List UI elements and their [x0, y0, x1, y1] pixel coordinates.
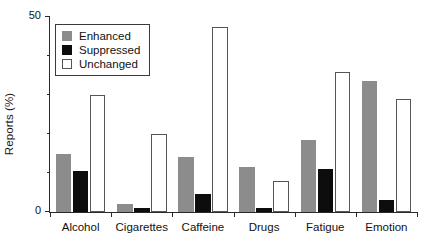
- x-axis-label-drugs: Drugs: [249, 221, 280, 233]
- bar-group: [362, 17, 412, 212]
- bar-cigarettes-suppressed: [134, 208, 150, 212]
- bar-drugs-suppressed: [256, 208, 272, 212]
- legend-swatch-unchanged-icon: [62, 59, 72, 69]
- bar-fatigue-unchanged: [335, 72, 351, 212]
- bar-caffeine-suppressed: [195, 194, 211, 212]
- bar-emotion-unchanged: [396, 99, 412, 212]
- bar-cigarettes-enhanced: [117, 204, 133, 212]
- legend-label: Suppressed: [79, 43, 140, 57]
- bar-alcohol-enhanced: [56, 154, 72, 213]
- y-axis-label: Reports (%): [0, 0, 18, 248]
- x-axis-tick: [295, 212, 296, 217]
- y-axis-tick-label: 50: [29, 9, 41, 21]
- legend-swatch-suppressed-icon: [62, 45, 72, 55]
- x-axis-tick: [356, 212, 357, 217]
- legend-swatch-enhanced-icon: [62, 31, 72, 41]
- x-axis-label-cigarettes: Cigarettes: [116, 221, 168, 233]
- legend-label: Unchanged: [79, 57, 138, 71]
- bar-group: [239, 17, 289, 212]
- legend-label: Enhanced: [79, 29, 131, 43]
- bar-group: [301, 17, 351, 212]
- bar-alcohol-suppressed: [73, 171, 89, 212]
- y-axis-minor-tick: [47, 133, 51, 134]
- x-axis-tick: [50, 212, 51, 217]
- bar-drugs-enhanced: [239, 167, 255, 212]
- bar-caffeine-enhanced: [178, 157, 194, 212]
- bar-group: [178, 17, 228, 212]
- bar-cigarettes-unchanged: [151, 134, 167, 212]
- bar-emotion-enhanced: [362, 81, 378, 212]
- y-axis-minor-tick: [47, 55, 51, 56]
- y-axis-tick-label: 0: [35, 204, 41, 216]
- bar-alcohol-unchanged: [90, 95, 106, 212]
- bar-drugs-unchanged: [273, 181, 289, 212]
- x-axis-tick: [111, 212, 112, 217]
- legend-item-suppressed: Suppressed: [62, 43, 140, 57]
- bar-fatigue-suppressed: [318, 169, 334, 212]
- y-axis-minor-tick: [47, 94, 51, 95]
- chart-legend: EnhancedSuppressedUnchanged: [55, 24, 150, 76]
- bar-chart-figure: Reports (%) 050 AlcoholCigarettesCaffein…: [0, 0, 421, 248]
- x-axis-label-fatigue: Fatigue: [306, 221, 344, 233]
- legend-item-unchanged: Unchanged: [62, 57, 140, 71]
- x-axis-tick: [234, 212, 235, 217]
- legend-item-enhanced: Enhanced: [62, 29, 140, 43]
- bar-emotion-suppressed: [379, 200, 395, 212]
- x-axis-tick: [417, 212, 418, 217]
- bar-caffeine-unchanged: [212, 27, 228, 212]
- y-axis-tick: 50: [45, 16, 50, 17]
- x-axis-label-caffeine: Caffeine: [182, 221, 225, 233]
- bar-fatigue-enhanced: [301, 140, 317, 212]
- x-axis-label-alcohol: Alcohol: [62, 221, 100, 233]
- x-axis-label-emotion: Emotion: [365, 221, 407, 233]
- x-axis-tick: [172, 212, 173, 217]
- y-axis-minor-tick: [47, 172, 51, 173]
